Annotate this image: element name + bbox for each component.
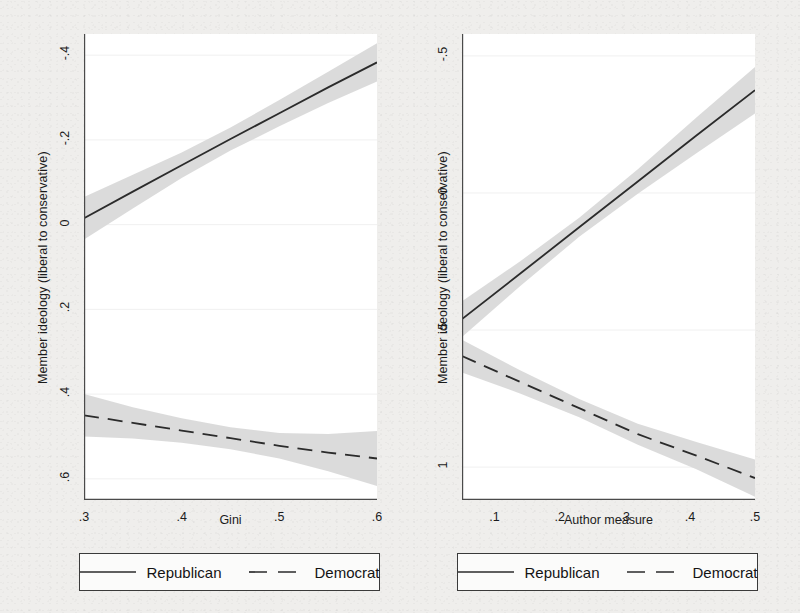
legend-entry-republican: Republican (79, 564, 221, 581)
legend-label-republican: Republican (524, 564, 599, 581)
solid-line-icon (79, 567, 137, 577)
dashed-line-icon (626, 567, 684, 577)
legend-entry-democrat: Democrat (248, 564, 380, 581)
y-tick-label: 0 (436, 180, 450, 202)
legend-entry-democrat: Democrat (626, 564, 758, 581)
y-tick-label: -.5 (436, 43, 450, 65)
legend-label-republican: Republican (146, 564, 221, 581)
x-axis-title: Gini (84, 513, 377, 527)
legend-label-democrat: Democrat (315, 564, 380, 581)
chart-panel-author-measure: Member ideology (liberal to conservative… (400, 0, 800, 613)
plot-svg (462, 34, 755, 500)
solid-line-icon (457, 567, 515, 577)
y-tick-label: 1 (436, 454, 450, 476)
plot-area (462, 34, 755, 500)
x-axis-title: Author measure (462, 513, 755, 527)
legend-entry-republican: Republican (457, 564, 599, 581)
y-tick-label: .2 (58, 296, 72, 318)
y-tick-label: .5 (436, 317, 450, 339)
y-tick-label: 0 (58, 212, 72, 234)
plot-svg (84, 34, 377, 500)
plot-area (84, 34, 377, 500)
dashed-line-icon (248, 567, 306, 577)
legend: Republican Democrat (79, 553, 380, 591)
y-tick-label: .6 (58, 466, 72, 488)
y-tick-label: -.4 (58, 42, 72, 64)
legend-label-democrat: Democrat (693, 564, 758, 581)
legend: Republican Democrat (457, 553, 758, 591)
y-axis-title: Member ideology (liberal to conservative… (36, 151, 50, 384)
y-tick-label: .4 (58, 381, 72, 403)
chart-panel-gini: Member ideology (liberal to conservative… (0, 0, 400, 613)
y-tick-label: -.2 (58, 127, 72, 149)
